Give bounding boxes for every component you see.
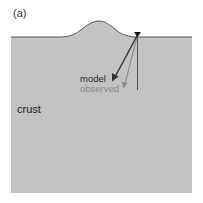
panel-label: (a)	[13, 7, 26, 19]
observed-label: observed	[80, 83, 119, 94]
crust-diagram	[0, 0, 203, 203]
crust-label: crust	[17, 103, 41, 115]
station-triangle-icon	[134, 32, 141, 37]
